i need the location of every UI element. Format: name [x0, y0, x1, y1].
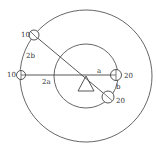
distance-label-2b: 2b [26, 52, 35, 60]
mass-label-left: 10 [7, 71, 16, 79]
distance-label-a: a [97, 67, 101, 75]
distance-label-b: b [116, 83, 121, 91]
mass-label-right: 20 [124, 72, 133, 80]
mass-right: 20 [111, 70, 133, 81]
mass-left: 10 [7, 71, 26, 80]
mass-label-lower-right: 20 [116, 97, 125, 105]
distance-label-2a: 2a [42, 78, 51, 86]
mass-upper-left: 10 [21, 30, 39, 40]
diagonal-rod [34, 35, 108, 97]
torque-diagram: 10 10 20 20 a b 2a 2b [0, 0, 156, 149]
mass-label-upper-left: 10 [21, 31, 30, 39]
